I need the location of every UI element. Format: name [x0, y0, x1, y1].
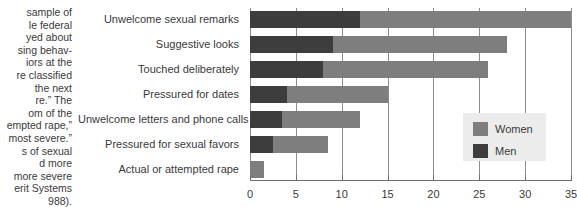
x-axis-tick-label: 25: [473, 188, 485, 200]
bar-segment-men: [250, 36, 333, 53]
bar-row: [250, 33, 571, 58]
category-label: Actual or attempted rape: [78, 158, 244, 183]
category-label: Pressured for sexual favors: [78, 133, 244, 158]
x-axis-tick-label: 10: [336, 188, 348, 200]
x-axis-tick-label: 30: [519, 188, 531, 200]
legend-item: Women: [473, 120, 546, 138]
x-axis-tick: [479, 175, 480, 181]
x-axis-tick: [296, 175, 297, 181]
legend-item: Men: [473, 142, 546, 160]
x-axis-tick-label: 0: [247, 188, 253, 200]
bar-segment-women: [250, 161, 264, 178]
x-axis-tick: [525, 175, 526, 181]
category-label: Touched deliberately: [78, 58, 244, 83]
chart-legend: WomenMen: [463, 113, 546, 161]
bar-row: [250, 83, 571, 108]
category-label: Suggestive looks: [78, 33, 244, 58]
x-axis-tick-label: 15: [381, 188, 393, 200]
legend-label: Women: [495, 123, 533, 135]
gridline: [571, 8, 572, 180]
category-label: Unwelcome letters and phone calls: [78, 108, 244, 133]
x-axis-tick: [571, 175, 572, 181]
x-axis-tick: [388, 175, 389, 181]
bar-segment-women: [333, 36, 507, 53]
x-axis-tick: [342, 175, 343, 181]
category-label: Pressured for dates: [78, 83, 244, 108]
bar-segment-women: [273, 136, 328, 153]
bar-segment-women: [282, 111, 360, 128]
bar-segment-men: [250, 136, 273, 153]
bar-segment-women: [323, 61, 488, 78]
x-axis-tick-label: 5: [293, 188, 299, 200]
legend-label: Men: [495, 145, 516, 157]
bar-row: [250, 8, 571, 33]
category-label: Unwelcome sexual remarks: [78, 8, 244, 33]
bar-segment-men: [250, 86, 287, 103]
bar-segment-men: [250, 11, 360, 28]
bar-segment-men: [250, 61, 323, 78]
x-axis-tick-label: 35: [565, 188, 577, 200]
bar-segment-men: [250, 111, 282, 128]
x-axis-line: [250, 180, 571, 181]
bar-segment-women: [287, 86, 388, 103]
bar-segment-women: [360, 11, 571, 28]
legend-swatch-men: [473, 144, 488, 158]
legend-swatch-women: [473, 122, 488, 136]
x-axis-tick: [250, 175, 251, 181]
x-axis-tick-label: 20: [427, 188, 439, 200]
category-axis-labels: Unwelcome sexual remarksSuggestive looks…: [78, 8, 244, 183]
bar-row: [250, 58, 571, 83]
x-axis-tick: [433, 175, 434, 181]
